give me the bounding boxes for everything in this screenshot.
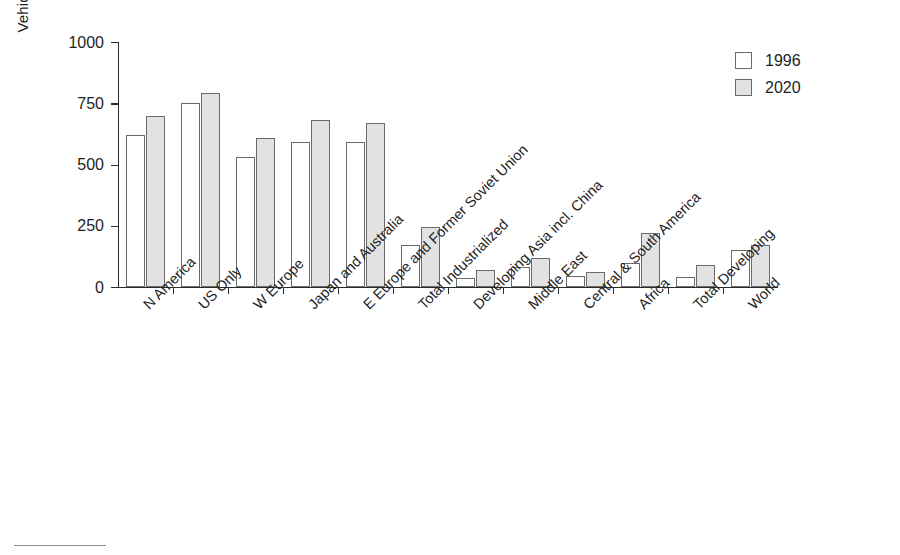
y-tick-label: 250 <box>77 217 104 235</box>
y-tick: 250 <box>111 226 118 227</box>
bar-1996 <box>126 135 145 287</box>
bar-1996 <box>676 277 695 287</box>
gray-square-icon <box>735 79 752 96</box>
bar-2020 <box>311 120 330 287</box>
plot-area: 02505007501000 <box>118 42 778 287</box>
white-square-icon <box>735 52 752 69</box>
y-tick-label: 1000 <box>68 34 104 52</box>
legend-entry-2020: 2020 <box>735 74 875 101</box>
legend-label-2020: 2020 <box>765 79 801 97</box>
y-tick-label: 750 <box>77 95 104 113</box>
legend-label-1996: 1996 <box>765 52 801 70</box>
y-tick-label: 0 <box>95 279 104 297</box>
y-tick-label: 500 <box>77 156 104 174</box>
legend-entry-1996: 1996 <box>735 47 875 74</box>
bar-chart: Vehicles per 1000 people 02505007501000 … <box>0 0 900 555</box>
y-tick: 750 <box>111 103 118 104</box>
y-tick: 1000 <box>111 42 118 43</box>
bar-2020 <box>201 93 220 287</box>
y-tick: 0 <box>111 287 118 288</box>
y-tick: 500 <box>111 165 118 166</box>
footer-rule <box>14 545 106 546</box>
bar-2020 <box>366 123 385 287</box>
bar-2020 <box>146 116 165 288</box>
bar-2020 <box>256 138 275 287</box>
legend: 1996 2020 <box>735 47 875 101</box>
y-axis-title: Vehicles per 1000 people <box>10 0 36 70</box>
bars-layer <box>118 42 778 287</box>
